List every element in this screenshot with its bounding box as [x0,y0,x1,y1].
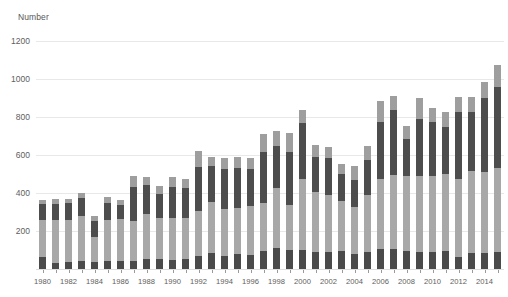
bar-segment [221,169,228,209]
bar-2012 [455,97,462,269]
bar-segment [130,187,137,221]
x-axis-tick-mark [225,270,226,273]
bar-segment [351,254,358,269]
x-axis-tick-mark [160,270,161,273]
gridline [36,41,504,42]
chart-container: Number 20040060080010001200 198019821984… [0,0,508,297]
bar-2010 [429,108,436,269]
bar-1985 [104,197,111,269]
bar-segment [156,218,163,259]
bar-segment [325,158,332,194]
bar-segment [390,110,397,175]
bar-segment [312,145,319,157]
bar-segment [481,98,488,172]
bar-segment [390,96,397,110]
x-axis-tick-mark [368,270,369,273]
x-axis-tick-mark [381,270,382,273]
bar-segment [169,187,176,218]
bar-segment [91,221,98,237]
bar-segment [286,133,293,152]
bar-segment [442,174,449,251]
bar-segment [494,87,501,168]
bar-2013 [468,97,475,269]
bar-2005 [364,146,371,269]
x-axis-tick-mark [186,270,187,273]
bar-1983 [78,193,85,269]
bar-segment [429,176,436,252]
bar-segment [325,252,332,269]
x-axis-tick-mark [290,270,291,273]
bar-1989 [156,186,163,269]
bar-segment [78,198,85,215]
bar-segment [273,248,280,269]
bar-segment [182,259,189,269]
y-axis-title: Number [18,12,49,22]
x-axis-tick-mark [251,270,252,273]
bar-segment [221,158,228,169]
x-axis-tick-mark [446,270,447,273]
bar-1992 [195,151,202,269]
bar-segment [130,176,137,187]
bar-segment [481,253,488,269]
bar-segment [39,257,46,269]
x-axis-tick-mark [238,270,239,273]
x-axis-tick-mark [485,270,486,273]
bar-segment [143,185,150,214]
x-axis-tick-mark [134,270,135,273]
bar-segment [312,252,319,269]
bar-segment [468,253,475,269]
bar-segment [403,126,410,139]
bar-segment [195,151,202,167]
bar-segment [78,261,85,269]
bar-segment [208,166,215,201]
bar-segment [299,250,306,269]
bar-1994 [221,158,228,269]
bar-segment [156,186,163,194]
bar-segment [234,157,241,168]
bar-segment [52,220,59,263]
x-axis-tick-mark [43,270,44,273]
bar-segment [468,171,475,252]
bar-segment [442,251,449,269]
bar-segment [416,119,423,176]
bar-segment [416,98,423,119]
bar-segment [143,214,150,259]
bar-segment [65,220,72,262]
bar-segment [52,204,59,221]
bar-segment [208,253,215,269]
bar-segment [351,166,358,180]
bar-2000 [299,110,306,269]
bar-segment [195,167,202,211]
bar-segment [481,82,488,98]
bar-segment [455,97,462,113]
x-axis-tick-mark [342,270,343,273]
x-axis-tick-mark [498,270,499,273]
bar-segment [195,211,202,257]
bar-segment [104,203,111,220]
bar-2001 [312,145,319,269]
bar-segment [247,169,254,206]
x-axis-tick-mark [147,270,148,273]
bar-segment [130,221,137,261]
bar-segment [156,194,163,218]
y-axis-tick-label: 1200 [0,36,30,46]
bar-segment [208,202,215,253]
bar-1996 [247,158,254,269]
x-axis-tick-mark [121,270,122,273]
bar-segment [338,164,345,174]
bar-segment [260,152,267,203]
bar-segment [455,179,462,257]
bar-segment [351,207,358,254]
bar-segment [104,220,111,261]
x-axis-tick-mark [264,270,265,273]
bar-segment [65,262,72,269]
x-axis-tick-mark [303,270,304,273]
bar-segment [169,177,176,186]
bar-segment [195,256,202,269]
bar-2004 [351,166,358,269]
bar-2006 [377,101,384,269]
x-axis-tick-mark [472,270,473,273]
bar-segment [416,176,423,251]
bar-segment [455,257,462,269]
bar-segment [117,261,124,269]
